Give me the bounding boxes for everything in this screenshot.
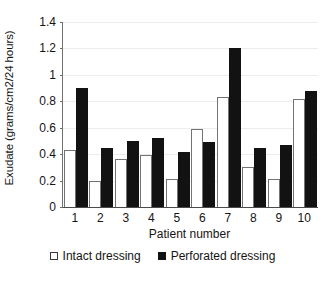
bar-group <box>140 22 166 207</box>
bar-group <box>242 22 268 207</box>
bar-perforated-dressing[interactable] <box>127 141 139 207</box>
y-axis-tick-label: 1.4 <box>39 16 56 28</box>
y-axis-tick-label: 0.8 <box>39 95 56 107</box>
bar-perforated-dressing[interactable] <box>280 145 292 207</box>
bar-chart-figure: Exudate (grams/cm2/24 hours) 00.20.40.60… <box>0 0 325 281</box>
bar-group <box>89 22 115 207</box>
bar-perforated-dressing[interactable] <box>76 88 88 207</box>
y-axis-tick-label: 1.2 <box>39 42 56 54</box>
x-axis-tick-label: 3 <box>113 210 139 226</box>
bars-layer <box>63 22 318 207</box>
x-axis-tick-label: 5 <box>164 210 190 226</box>
y-axis-title-text: Exudate (grams/cm2/24 hours) <box>3 30 15 185</box>
bar-intact-dressing[interactable] <box>89 181 101 207</box>
x-axis-tick-labels: 12345678910 <box>62 210 317 226</box>
bar-group <box>267 22 293 207</box>
bar-intact-dressing[interactable] <box>217 97 229 207</box>
x-axis-tick-label: 4 <box>139 210 165 226</box>
bar-perforated-dressing[interactable] <box>101 148 113 207</box>
y-axis-tick-label: 0.6 <box>39 122 56 134</box>
legend-label: Intact dressing <box>63 250 141 262</box>
legend-entry[interactable]: Perforated dressing <box>158 250 276 262</box>
x-axis-tick-label: 1 <box>62 210 88 226</box>
y-axis-tick-label: 0.2 <box>39 175 56 187</box>
y-axis-tick-label: 1 <box>49 69 56 81</box>
x-axis-title-text: Patient number <box>149 227 230 241</box>
chart-legend: Intact dressingPerforated dressing <box>0 250 325 262</box>
x-axis-title: Patient number <box>62 227 317 241</box>
x-axis-tick-label: 6 <box>190 210 216 226</box>
bar-intact-dressing[interactable] <box>293 99 305 207</box>
bar-intact-dressing[interactable] <box>166 179 178 207</box>
legend-label: Perforated dressing <box>171 250 276 262</box>
y-axis-tick-label: 0.4 <box>39 148 56 160</box>
bar-group <box>216 22 242 207</box>
y-axis-title: Exudate (grams/cm2/24 hours) <box>0 0 18 215</box>
bar-group <box>293 22 319 207</box>
bar-perforated-dressing[interactable] <box>178 152 190 208</box>
x-axis-tick-label: 2 <box>88 210 114 226</box>
bar-perforated-dressing[interactable] <box>229 48 241 207</box>
bar-group <box>165 22 191 207</box>
bar-perforated-dressing[interactable] <box>305 91 317 207</box>
bar-perforated-dressing[interactable] <box>254 148 266 207</box>
black-square-icon <box>158 252 166 260</box>
x-axis-tick-label: 9 <box>266 210 292 226</box>
white-square-icon <box>50 252 58 260</box>
bar-perforated-dressing[interactable] <box>152 138 164 207</box>
bar-intact-dressing[interactable] <box>64 150 76 207</box>
x-axis-tick-label: 10 <box>292 210 318 226</box>
bar-group <box>191 22 217 207</box>
bar-group <box>114 22 140 207</box>
bar-perforated-dressing[interactable] <box>203 142 215 207</box>
bar-intact-dressing[interactable] <box>115 159 127 207</box>
y-axis-tick-label: 0 <box>49 201 56 213</box>
y-axis-tick-mark <box>60 207 63 208</box>
bar-intact-dressing[interactable] <box>268 179 280 207</box>
bar-intact-dressing[interactable] <box>191 129 203 207</box>
legend-entry[interactable]: Intact dressing <box>50 250 141 262</box>
bar-group <box>63 22 89 207</box>
y-axis-tick-labels: 00.20.40.60.811.21.4 <box>18 0 60 215</box>
bar-intact-dressing[interactable] <box>140 155 152 207</box>
plot-area <box>62 22 318 208</box>
x-axis-tick-label: 8 <box>241 210 267 226</box>
bar-intact-dressing[interactable] <box>242 167 254 207</box>
x-axis-tick-label: 7 <box>215 210 241 226</box>
